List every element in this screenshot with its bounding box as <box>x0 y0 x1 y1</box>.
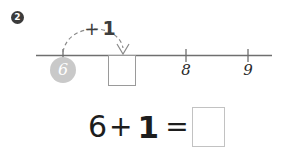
number-line-answer-box[interactable] <box>108 55 136 86</box>
start-value-chip: 6 <box>50 57 76 83</box>
tick-label-8: 8 <box>175 61 197 79</box>
worksheet-problem-canvas: 2 +1 6 8 9 6 + 1 = <box>0 0 288 160</box>
equation-right-operand: 1 <box>138 110 160 144</box>
equation-left-operand: 6 <box>88 110 107 144</box>
equation-equals-sign: = <box>165 110 188 144</box>
equation-row: 6 + 1 = <box>88 104 225 150</box>
equation-plus-operator: + <box>109 110 132 144</box>
jump-value: 1 <box>102 17 115 39</box>
jump-label: +1 <box>81 17 119 39</box>
equation-answer-box[interactable] <box>192 107 225 147</box>
arrowhead-down-icon <box>117 44 129 54</box>
jump-operator: + <box>84 18 99 39</box>
tick-label-9: 9 <box>237 61 259 79</box>
